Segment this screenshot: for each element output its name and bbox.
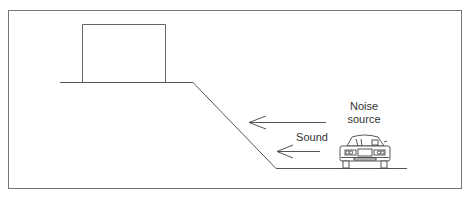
sound-arrow-upper <box>249 116 326 129</box>
diagram-frame <box>9 11 462 189</box>
noise-source-label: Noise source <box>339 100 389 126</box>
noise-label-line1: Noise <box>339 100 389 113</box>
car-icon <box>340 135 390 168</box>
building <box>83 25 166 83</box>
sound-label: Sound <box>295 131 329 144</box>
sound-arrow-lower <box>277 145 320 158</box>
noise-label-line2: source <box>339 113 389 126</box>
noise-barrier-diagram <box>0 0 466 198</box>
